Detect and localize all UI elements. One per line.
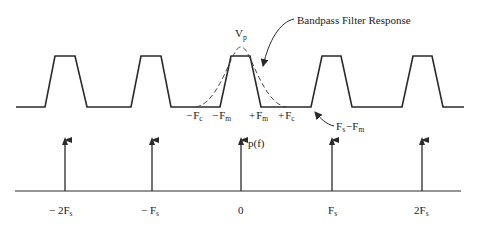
center-lobe-frequency-labels: −Fc −Fm +Fm +Fc bbox=[186, 109, 295, 123]
arrow-up-icon bbox=[419, 137, 425, 145]
impulse-train bbox=[65, 140, 422, 191]
peak-voltage-label: Vp bbox=[235, 27, 247, 42]
alias-pointer-arrow bbox=[315, 112, 334, 126]
arrow-up-icon bbox=[238, 137, 244, 145]
bandpass-filter-label: Bandpass Filter Response bbox=[297, 14, 411, 26]
impulse-function-label: p(f) bbox=[248, 137, 265, 150]
arrow-up-icon bbox=[62, 137, 68, 145]
label-pos-fm: +Fm bbox=[249, 109, 268, 123]
tick-fs: Fs bbox=[328, 204, 337, 218]
tick-neg-fs: − Fs bbox=[141, 204, 159, 218]
sampling-spectrum-diagram: Vp Bandpass Filter Response −Fc −Fm +Fm … bbox=[0, 0, 477, 226]
axis-tick-labels: − 2Fs − Fs 0 Fs 2Fs bbox=[49, 204, 429, 218]
tick-2fs: 2Fs bbox=[414, 204, 429, 218]
tick-zero: 0 bbox=[238, 204, 244, 216]
arrow-up-icon bbox=[149, 137, 155, 145]
label-neg-fm: −Fm bbox=[212, 109, 231, 123]
spectrum-trapezoid-train bbox=[16, 56, 464, 107]
tick-neg-2fs: − 2Fs bbox=[49, 204, 73, 218]
label-neg-fc: −Fc bbox=[186, 109, 203, 123]
label-pos-fc: +Fc bbox=[278, 109, 295, 123]
impulse-arrowheads bbox=[62, 137, 425, 145]
filter-pointer-arrow bbox=[263, 19, 294, 66]
arrow-up-icon bbox=[329, 137, 335, 145]
svg-text:Vp: Vp bbox=[235, 27, 247, 42]
alias-frequency-label: Fs−Fm bbox=[336, 120, 364, 134]
